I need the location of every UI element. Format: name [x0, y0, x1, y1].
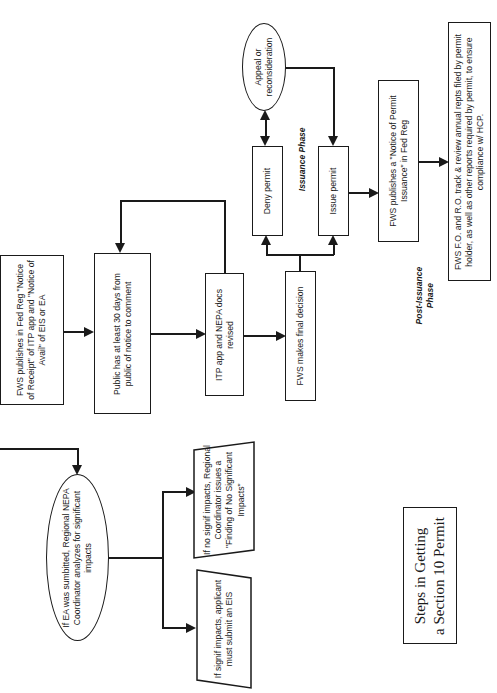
branch-signif [162, 627, 188, 629]
notice-issuance-text: FWS publishes a "Notice of Permit Issuan… [387, 86, 409, 236]
final-decision-text: FWS makes final decision [295, 274, 306, 399]
signif-text: If signif impacts, applicant must submit… [213, 577, 235, 682]
title-line2: a Section 10 Permit [430, 517, 449, 635]
post-issuance-line2: Phase [425, 261, 436, 331]
issue-permit-text: Issue permit [328, 149, 339, 234]
loop-itp-up [224, 200, 226, 273]
notice-issuance-box: FWS publishes a "Notice of Permit Issuan… [378, 80, 419, 242]
appeal-ellipse: Appeal or reconsideration [242, 23, 286, 111]
connector-to-ea [0, 448, 78, 450]
docs-revised-box: ITP app and NEPA docs revised [205, 273, 244, 396]
arrow-right-icon [84, 327, 94, 337]
post-issuance-line1: Post-Issuance [414, 261, 425, 331]
issue-notice [348, 192, 370, 194]
title-box: Steps in Getting a Section 10 Permit [403, 507, 457, 644]
title-text: Steps in Getting a Section 10 Permit [411, 517, 449, 635]
connector-itp-decision [243, 335, 279, 337]
title-line1: Steps in Getting [411, 517, 430, 635]
ea-branch [108, 557, 163, 559]
ea-branch-vertical [162, 491, 164, 628]
arrow-down-icon [260, 136, 270, 146]
deny-permit-text: Deny permit [262, 149, 273, 234]
no-signif-text: If no signif impacts, Regional Coordinat… [202, 445, 247, 555]
notice-track [418, 161, 440, 163]
arrow-up-icon [261, 235, 271, 245]
decision-branch [266, 254, 334, 256]
connector-public-itp [150, 333, 198, 335]
issuance-phase-label: Issuance Phase [297, 119, 308, 199]
decision-up [299, 254, 301, 271]
issuance-phase-text: Issuance Phase [297, 127, 307, 191]
track-reports-text: FWS F.O. and R.O. track & review annual … [453, 26, 487, 278]
public-comment-box: Public has at least 30 days from public … [94, 253, 151, 414]
fed-reg-notice-box: FWS publishes in Fed Reg "Notice of Rece… [0, 255, 64, 405]
post-issuance-phase-label: Post-Issuance Phase [414, 261, 435, 331]
public-comment-text: Public has at least 30 days from public … [111, 261, 133, 406]
arrow-down-icon [328, 136, 338, 146]
loop-top [120, 200, 225, 202]
docs-revised-text: ITP app and NEPA docs revised [213, 280, 235, 390]
arrow-up-icon [328, 235, 338, 245]
track-reports-box: FWS F.O. and R.O. track & review annual … [448, 22, 491, 281]
final-decision-box: FWS makes final decision [285, 271, 316, 401]
no-signif-label-wrap: If no signif impacts, Regional Coordinat… [192, 440, 256, 560]
arrow-up-icon [260, 110, 270, 120]
branch-deny [266, 244, 268, 255]
arrow-down-icon [115, 243, 125, 253]
issue-permit-box: Issue permit [318, 146, 349, 236]
loop-down [120, 200, 122, 245]
fed-reg-notice-text: FWS publishes in Fed Reg "Notice of Rece… [15, 260, 49, 400]
appeal-text: Appeal or reconsideration [253, 30, 275, 105]
ea-analysis-ellipse: If EA was sumbitted, Regional NEPA Coord… [46, 474, 109, 641]
appeal-issue-down [333, 67, 335, 139]
deny-permit-box: Deny permit [252, 146, 283, 236]
signif-label-wrap: If signif impacts, applicant must submit… [195, 568, 253, 690]
branch-issue [333, 244, 335, 255]
appeal-issue-top [285, 67, 334, 69]
ea-analysis-text: If EA was sumbitted, Regional NEPA Coord… [61, 483, 95, 633]
branch-no-signif [162, 491, 188, 493]
